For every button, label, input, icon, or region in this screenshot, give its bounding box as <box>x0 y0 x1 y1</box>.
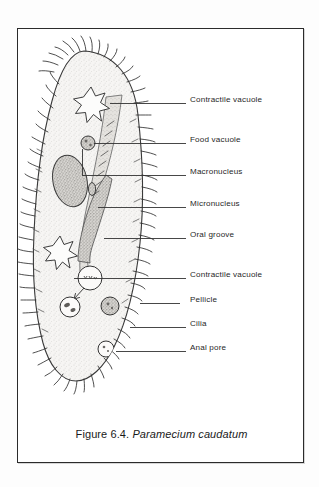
callout-cilia: Cilia <box>190 319 207 329</box>
callout-macronucleus: Macronucleus <box>190 167 243 177</box>
callout-food-vacuole: Food vacuole <box>190 135 241 145</box>
figure-frame: Contractile vacuole Food vacuole Macronu… <box>17 28 304 463</box>
food-vacuole-left <box>60 297 80 317</box>
caption-species-name: Paramecium caudatum <box>132 428 247 440</box>
callout-oral-groove: Oral groove <box>190 230 234 240</box>
callout-contractile-vacuole-posterior: Contractile vacuole <box>190 270 262 280</box>
callout-micronucleus: Micronucleus <box>190 199 240 209</box>
callout-anal-pore: Anal pore <box>190 343 226 353</box>
callout-contractile-vacuole-anterior: Contractile vacuole <box>190 95 262 105</box>
callout-pellicle: Pellicle <box>190 295 217 305</box>
caption-prefix: Figure 6.4. <box>76 428 130 440</box>
food-vacuole-right <box>101 297 119 315</box>
figure-caption: Figure 6.4. Paramecium caudatum <box>18 428 305 440</box>
micronucleus <box>88 183 95 196</box>
food-vacuole-upper <box>81 136 95 150</box>
figure-root: Contractile vacuole Food vacuole Macronu… <box>0 0 319 487</box>
